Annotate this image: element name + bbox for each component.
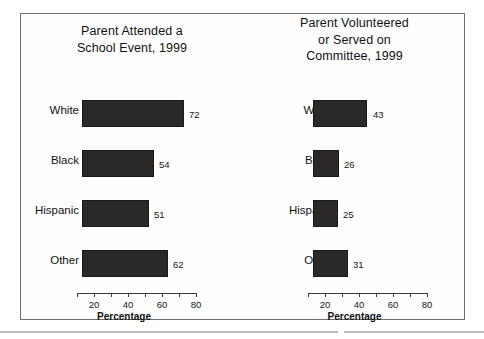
bar-value-black: 54 — [159, 159, 170, 170]
bar-value-other: 62 — [173, 259, 184, 270]
x-axis-label-20: 20 — [320, 299, 331, 310]
x-axis-label-80: 80 — [191, 299, 202, 310]
x-axis-tick-80 — [427, 293, 428, 297]
x-axis-tick-20 — [325, 293, 326, 297]
bar-hispanic — [82, 200, 149, 227]
bar-other — [313, 250, 348, 277]
category-label-hispanic: Hispanic — [35, 204, 79, 217]
footer-rule-right — [344, 331, 484, 333]
x-axis-label-20: 20 — [89, 299, 100, 310]
x-axis-tick-40 — [359, 293, 360, 297]
x-axis-title: Percentage — [13, 311, 235, 322]
bar-value-white: 72 — [189, 109, 200, 120]
x-axis-tick-10 — [77, 293, 78, 297]
bar-hispanic — [313, 200, 338, 227]
bar-black — [82, 150, 154, 177]
x-axis-label-60: 60 — [388, 299, 399, 310]
x-axis-tick-80 — [196, 293, 197, 297]
x-axis-tick-40 — [128, 293, 129, 297]
category-label-other: Other — [50, 254, 79, 267]
x-axis-label-60: 60 — [157, 299, 168, 310]
chart-panel-parent-attended-school-event: Parent Attended a School Event, 1999 Whi… — [21, 14, 243, 319]
x-axis-tick-50 — [376, 293, 377, 297]
footer-rule-left — [0, 331, 338, 333]
x-axis-tick-20 — [94, 293, 95, 297]
x-axis-tick-70 — [179, 293, 180, 297]
bar-value-black: 26 — [344, 159, 355, 170]
plot-area: White Black Hispanic Other 72 54 51 62 — [21, 14, 243, 319]
bar-black — [313, 150, 339, 177]
x-axis-tick-30 — [111, 293, 112, 297]
x-axis-title: Percentage — [243, 311, 466, 322]
plot-area: White Black Hispanic Other 43 26 25 31 — [243, 14, 466, 319]
bar-white — [313, 100, 367, 127]
x-axis-tick-70 — [410, 293, 411, 297]
x-axis-label-40: 40 — [123, 299, 134, 310]
x-axis-label-40: 40 — [354, 299, 365, 310]
bar-white — [82, 100, 184, 127]
x-axis-tick-60 — [393, 293, 394, 297]
bar-value-white: 43 — [373, 109, 384, 120]
category-label-white: White — [50, 104, 79, 117]
bar-value-hispanic: 51 — [154, 209, 165, 220]
chart-panel-parent-volunteered-or-served: Parent Volunteered or Served on Committe… — [243, 14, 466, 319]
category-label-black: Black — [51, 154, 79, 167]
x-axis-tick-30 — [342, 293, 343, 297]
x-axis-tick-60 — [162, 293, 163, 297]
x-axis-tick-50 — [145, 293, 146, 297]
x-axis-tick-10 — [308, 293, 309, 297]
x-axis-label-80: 80 — [422, 299, 433, 310]
figure-frame: Parent Attended a School Event, 1999 Whi… — [20, 13, 465, 320]
bar-other — [82, 250, 168, 277]
bar-value-other: 31 — [353, 259, 364, 270]
bar-value-hispanic: 25 — [343, 209, 354, 220]
